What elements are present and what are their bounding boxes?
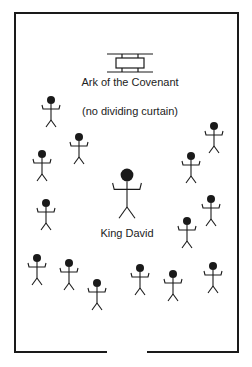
stick-figure-icon (205, 122, 223, 153)
stick-figure-icon (202, 195, 220, 226)
curtain-note: (no dividing curtain) (82, 105, 178, 117)
worshippers-group (28, 96, 223, 310)
stick-figure-icon (33, 150, 51, 181)
stick-figure-icon (204, 262, 222, 293)
stick-figure-icon (182, 152, 200, 183)
king-stick-figure-icon (113, 169, 142, 219)
stick-figure-icon (178, 217, 196, 248)
tabernacle-diagram (0, 0, 252, 367)
ark-label: Ark of the Covenant (81, 76, 178, 88)
king-label: King David (100, 227, 153, 239)
stick-figure-icon (88, 279, 106, 310)
stick-figure-icon (60, 259, 78, 290)
stick-figure-icon (28, 254, 46, 285)
stick-figure-icon (37, 199, 55, 230)
stick-figure-icon (70, 133, 88, 164)
stick-figure-icon (42, 96, 60, 127)
king-david-figure (113, 169, 142, 219)
stick-figure-icon (164, 270, 182, 301)
stick-figure-icon (131, 264, 149, 295)
ark-icon (107, 54, 153, 72)
